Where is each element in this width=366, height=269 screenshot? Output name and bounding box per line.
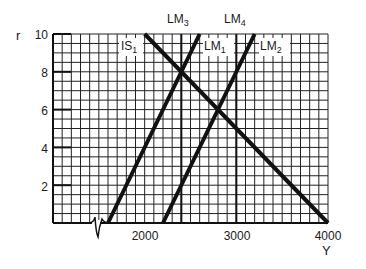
label-lm2: LM2 bbox=[259, 38, 290, 56]
y-tick-2: 2 bbox=[41, 180, 48, 194]
x-axis-title: Y bbox=[322, 243, 331, 258]
y-axis-title: r bbox=[16, 28, 21, 43]
grid bbox=[53, 34, 328, 223]
label-lm4: LM4 bbox=[222, 10, 254, 30]
islm-chart: r Y 10 8 6 4 2 2000 3000 4000 IS1 LM3 LM… bbox=[0, 0, 366, 269]
label-lm3: LM3 bbox=[166, 10, 202, 30]
y-tick-6: 6 bbox=[41, 104, 48, 118]
x-tick-4000: 4000 bbox=[315, 229, 342, 243]
x-tick-3000: 3000 bbox=[224, 229, 251, 243]
label-is1: IS1 bbox=[119, 38, 143, 56]
x-tick-2000: 2000 bbox=[132, 229, 159, 243]
y-tick-4: 4 bbox=[41, 142, 48, 156]
label-lm1: LM1 bbox=[203, 38, 234, 56]
y-tick-8: 8 bbox=[41, 66, 48, 80]
y-tick-10: 10 bbox=[35, 28, 49, 42]
